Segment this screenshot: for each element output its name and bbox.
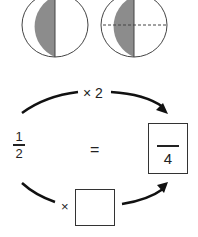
left-fraction: 1 2 [13,130,25,160]
answer-denominator: 4 [149,150,187,167]
top-operation-label: × 2 [83,86,103,100]
equals-sign: = [90,142,99,158]
half-shaded-circle [22,0,88,57]
bottom-multiply-symbol: × [61,200,69,213]
quarter-divided-circle [101,0,167,57]
answer-fraction-box[interactable]: 4 [148,123,188,174]
answer-fraction-bar [157,145,179,147]
left-numerator: 1 [13,130,25,143]
multiplier-input-box[interactable] [75,189,115,226]
left-denominator: 2 [13,147,25,160]
